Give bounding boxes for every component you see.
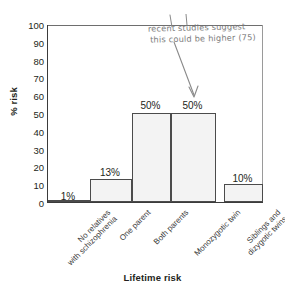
bar-one-parent xyxy=(90,179,132,202)
y-tick-30: 30 xyxy=(2,146,44,156)
y-axis-ticks: 100 90 80 70 60 50 40 30 20 10 0 xyxy=(0,0,44,296)
bar-siblings-dizygotic xyxy=(224,184,263,202)
data-label-one-parent: 13% xyxy=(89,168,131,178)
y-tick-10: 10 xyxy=(2,181,44,191)
y-tick-40: 40 xyxy=(2,128,44,138)
data-label-monozygotic-twin: 50% xyxy=(170,101,215,111)
y-tick-70: 70 xyxy=(2,74,44,84)
chart-figure: % risk 100 90 80 70 60 50 40 30 20 10 0 … xyxy=(0,0,285,296)
y-tick-20: 20 xyxy=(2,163,44,173)
data-label-siblings-dizygotic: 10% xyxy=(223,174,262,184)
y-tick-90: 90 xyxy=(2,39,44,49)
annotation-line-2: this could be higher (75) xyxy=(148,31,284,45)
x-axis-title: Lifetime risk xyxy=(40,272,265,283)
data-label-no-relatives: 1% xyxy=(47,192,89,202)
y-tick-0: 0 xyxy=(2,199,44,209)
annotation-pen-ticks xyxy=(160,14,220,32)
y-tick-60: 60 xyxy=(2,92,44,102)
y-tick-100: 100 xyxy=(2,21,44,31)
x-category-no-relatives: No relatives with schizophrenia xyxy=(47,208,119,280)
y-tick-50: 50 xyxy=(2,110,44,120)
bar-both-parents xyxy=(132,113,171,202)
data-label-both-parents: 50% xyxy=(131,101,170,111)
bar-monozygotic-twin xyxy=(171,113,216,202)
y-tick-80: 80 xyxy=(2,57,44,67)
